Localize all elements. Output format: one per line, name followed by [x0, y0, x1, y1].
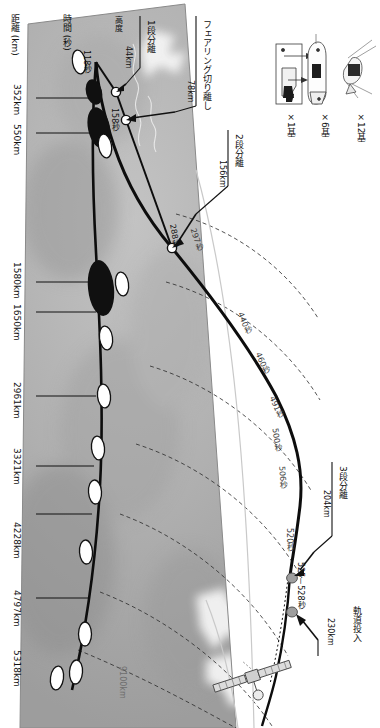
engine-figure-stage2 — [308, 34, 326, 104]
event-time-158: 158秒 — [110, 108, 118, 131]
separation-altitude-orbit: 230km — [326, 618, 334, 646]
earth-background-layer — [0, 0, 380, 728]
separation-label-orbit-insertion: 軌道投入 — [352, 606, 361, 642]
distance-tick-5318: 5318km — [12, 650, 21, 687]
event-time-525-528: 525－528秒 — [296, 562, 304, 609]
distance-tick-4797: 4797km — [12, 590, 21, 627]
axis-label-distance: 距離 (km) — [10, 14, 19, 56]
distance-tick-2961: 2961km — [12, 382, 21, 419]
axis-label-time: 時間 (秒) — [62, 14, 71, 51]
event-time-118: 118秒 — [82, 50, 90, 73]
hardware-count-stage2: ×6基 — [320, 112, 329, 137]
separation-label-stage2: 2段分離 — [234, 134, 243, 167]
event-time-506: 506秒 — [277, 466, 287, 490]
separation-altitude-stage1: 44km — [124, 46, 132, 69]
distance-tick-9100: 9100km — [118, 666, 126, 699]
axis-label-altitude: 高度 — [113, 16, 121, 32]
distance-tick-3321: 3321km — [12, 448, 21, 485]
separation-label-fairing: フェアリング切り離し — [202, 20, 211, 110]
hardware-count-srb: ×12基 — [356, 112, 365, 142]
separation-altitude-stage2: 156km — [218, 160, 226, 188]
separation-altitude-fairing: 78km — [186, 80, 194, 103]
hardware-count-stage1: ×1基 — [286, 112, 295, 137]
separation-label-stage1: 1段分離 — [146, 20, 155, 53]
separation-altitude-stage3: 204km — [322, 490, 330, 518]
earth-surface — [0, 0, 380, 728]
distance-tick-352: 352km — [12, 84, 21, 115]
distance-tick-550: 550km — [12, 124, 21, 155]
event-time-520: 520秒 — [285, 528, 293, 551]
booster-figure-srb — [343, 40, 376, 98]
distance-tick-4228: 4228km — [12, 522, 21, 559]
separation-label-stage3: 3段分離 — [338, 466, 347, 499]
trajectory-diagram: 距離 (km) 時間 (秒) 高度 118秒 158秒 288秒 297秒 44… — [0, 0, 380, 728]
distance-tick-1580: 1580km — [12, 262, 21, 299]
distance-tick-1650: 1650km — [12, 304, 21, 341]
